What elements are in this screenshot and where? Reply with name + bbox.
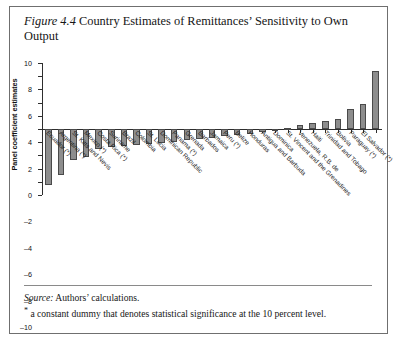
y-tick-label: 10 xyxy=(24,59,32,68)
x-axis-labels: Ecuador (*)Argentina (*)St. Kitts and Ne… xyxy=(42,129,387,249)
y-tick-label: 0 xyxy=(28,191,32,200)
notes-divider xyxy=(24,285,372,286)
y-tick-label: –10 xyxy=(20,323,32,332)
y-tick-label: 2 xyxy=(28,164,32,173)
figure-number: Figure 4.4 xyxy=(24,14,76,28)
y-tick-label: 6 xyxy=(28,111,32,120)
y-tick-label: –2 xyxy=(24,217,32,226)
chart-area: Panel coefficient estimates 1086420–2–4–… xyxy=(0,58,397,276)
footnote-marker: * xyxy=(24,306,28,315)
source-text: Authors’ calculations. xyxy=(55,292,139,303)
figure-title: Figure 4.4 Country Estimates of Remittan… xyxy=(24,14,369,44)
source-line: Source: Authors’ calculations. xyxy=(24,292,374,305)
footnote-line: * a constant dummy that denotes statisti… xyxy=(24,305,374,321)
y-tick-label: –6 xyxy=(24,270,32,279)
footnote-text: a constant dummy that denotes statistica… xyxy=(30,308,326,319)
y-axis-title: Panel coefficient estimates xyxy=(10,65,19,185)
y-tick-label: –4 xyxy=(24,243,32,252)
y-tick-label: 8 xyxy=(28,85,32,94)
y-tick-label: 4 xyxy=(28,138,32,147)
figure-notes: Source: Authors’ calculations. * a const… xyxy=(24,292,374,320)
bar xyxy=(360,104,367,129)
bar xyxy=(335,119,342,129)
bar xyxy=(372,71,379,129)
figure-page: Figure 4.4 Country Estimates of Remittan… xyxy=(0,0,397,340)
source-label: Source: xyxy=(24,292,53,303)
bar xyxy=(347,109,354,129)
